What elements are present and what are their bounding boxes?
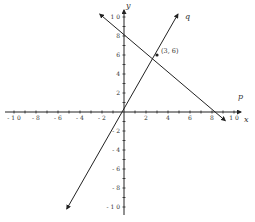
x-tick-label: 8	[210, 114, 214, 121]
x-tick-label: 4	[166, 114, 170, 121]
x-tick-label: - 4	[76, 114, 84, 121]
y-tick-label: 1 0	[110, 13, 120, 20]
y-tick-label: 4	[116, 70, 120, 77]
x-tick-label: 2	[144, 114, 148, 121]
x-tick-label: - 1 0	[7, 114, 21, 121]
x-tick-label: 1 0	[229, 114, 239, 121]
line-q-label: q	[185, 12, 190, 21]
y-tick-label: 8	[116, 32, 120, 39]
y-axis-label: y	[125, 1, 131, 10]
x-tick-label: - 6	[54, 114, 62, 121]
x-tick-label: - 8	[32, 114, 40, 121]
x-axis-label: x	[244, 115, 249, 124]
y-tick-label: - 1 0	[107, 203, 121, 210]
x-tick-label: 6	[188, 114, 192, 121]
y-tick-label: - 6	[112, 165, 120, 172]
x-tick-label: - 2	[98, 114, 106, 121]
y-tick-label: 6	[116, 51, 120, 58]
y-tick-label: 2	[116, 89, 120, 96]
coordinate-plane: - 1 0- 8- 6- 4- 224681 024681 0- 2- 4- 6…	[0, 0, 255, 222]
y-tick-label: - 4	[112, 146, 120, 153]
line-p-label: p	[238, 92, 243, 101]
intersection-point	[155, 53, 158, 56]
line-p	[100, 14, 225, 120]
intersection-label: (3, 6)	[161, 47, 179, 55]
y-tick-label: - 8	[112, 184, 120, 191]
